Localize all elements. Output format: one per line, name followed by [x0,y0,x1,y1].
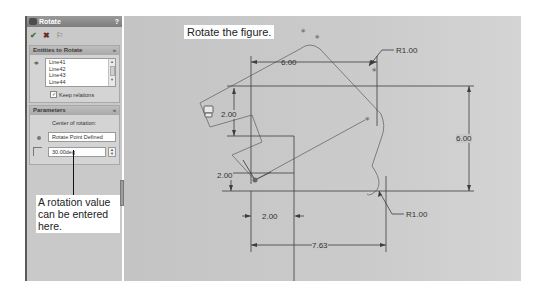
dimension-top-width[interactable]: 6.00 [281,58,297,67]
dimension-left-upper-height[interactable]: 2.00 [221,110,237,119]
dimension-bottom-offset[interactable]: 2.00 [262,212,278,221]
svg-text:◉: ◉ [365,115,370,121]
parameters-group: Parameters » Center of rotation: Rotate … [29,105,120,165]
rotation-value-callout: A rotation value can be entered here. [36,195,120,233]
parameters-group-title: Parameters [33,107,66,113]
entities-listbox[interactable]: Line41 Line42 Line43 Line44 ▲ ▼ [45,58,116,87]
keep-relations-label: Keep relations [59,92,94,98]
angle-spinner[interactable]: ▲ ▼ [108,147,116,157]
dimension-bottom-width[interactable]: 7.63 [312,241,328,250]
rotate-property-manager: Rotate ? ✔ ✖ ⚐ Entities to Rotate » ⚭ Li… [25,16,122,281]
ok-checkmark-icon[interactable]: ✔ [29,31,38,40]
collapse-chevron-icon[interactable]: » [113,106,116,115]
screenshot-root: Rotate ? ✔ ✖ ⚐ Entities to Rotate » ⚭ Li… [0,0,543,287]
svg-text:◉: ◉ [315,33,320,39]
callout-leader-line [73,150,74,195]
listbox-scrollbar[interactable]: ▲ ▼ [108,59,115,86]
panel-title-bar: Rotate ? [27,16,122,27]
pushpin-icon[interactable]: ⚐ [55,31,64,40]
cancel-x-icon[interactable]: ✖ [42,31,51,40]
list-item[interactable]: Line44 [46,79,115,86]
checkbox-icon[interactable]: ✓ [50,91,57,98]
collapse-chevron-icon[interactable]: » [113,46,116,55]
sketch-entities-icon: ⚭ [33,59,42,68]
center-point-icon [37,136,41,140]
keep-relations-checkbox[interactable]: ✓ Keep relations [50,91,94,98]
panel-toolbar: ✔ ✖ ⚐ [29,29,64,41]
dimension-bottom-radius[interactable]: R1.00 [406,210,427,219]
entities-group-header[interactable]: Entities to Rotate » [30,46,119,55]
scroll-up-icon[interactable]: ▲ [109,59,115,65]
scroll-down-icon[interactable]: ▼ [109,77,115,83]
dimension-left-lower-height[interactable]: 2.00 [217,171,233,180]
svg-text:◉: ◉ [372,66,377,72]
center-of-rotation-field[interactable]: Rotate Point Defined [48,132,116,142]
center-of-rotation-label: Center of rotation: [52,120,96,126]
rotate-figure-callout: Rotate the figure. [184,25,274,39]
entities-group-title: Entities to Rotate [33,47,82,53]
scroll-thumb[interactable] [110,66,115,76]
panel-title: Rotate [39,18,61,25]
angle-icon [33,147,42,156]
rotation-angle-input[interactable]: 30.00deg [48,147,106,157]
dimension-right-height[interactable]: 6.00 [456,134,472,143]
rotate-icon [29,18,37,25]
parameters-group-header[interactable]: Parameters » [30,106,119,115]
svg-text:◉: ◉ [301,27,306,33]
spin-down-icon[interactable]: ▼ [109,152,115,156]
dimension-top-radius[interactable]: R1.00 [396,46,417,55]
graphics-area[interactable]: ◉ ◉ ◉ ◉ Rotate the figure. 6.00 R1.00 6.… [124,16,521,281]
origin-point [253,178,258,183]
help-button[interactable]: ? [115,16,119,27]
entities-to-rotate-group: Entities to Rotate » ⚭ Line41 Line42 Lin… [29,45,120,103]
